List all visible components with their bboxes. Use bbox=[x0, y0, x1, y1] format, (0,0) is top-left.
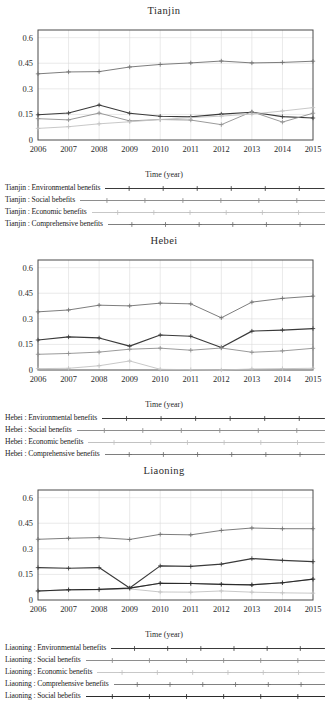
svg-text:2014: 2014 bbox=[274, 145, 292, 154]
panel-tianjin: Tianjin 00.150.30.450.620062007200820092… bbox=[0, 0, 328, 230]
panel-hebei: Hebei 00.150.30.450.62006200720082009201… bbox=[0, 230, 328, 460]
svg-text:2010: 2010 bbox=[152, 605, 169, 614]
legend-line-sample bbox=[111, 643, 325, 654]
legend-item[interactable]: Liaoning : Comprehensive benefits bbox=[0, 678, 328, 690]
svg-text:2008: 2008 bbox=[91, 145, 108, 154]
svg-text:2006: 2006 bbox=[30, 375, 47, 384]
svg-text:2015: 2015 bbox=[305, 605, 322, 614]
legend-label: Tianjin : Environmental benefits bbox=[5, 182, 100, 194]
svg-text:0.3: 0.3 bbox=[23, 545, 33, 554]
svg-text:2014: 2014 bbox=[274, 375, 292, 384]
legend-line-sample bbox=[80, 195, 325, 206]
legend-line-sample bbox=[77, 425, 325, 436]
svg-text:2009: 2009 bbox=[121, 375, 138, 384]
svg-text:0: 0 bbox=[29, 366, 33, 375]
svg-text:2012: 2012 bbox=[213, 375, 230, 384]
line-chart-hebei: 00.150.30.450.62006200720082009201020112… bbox=[0, 248, 328, 400]
legend-item[interactable]: Liaoning : Environmental benefits bbox=[0, 642, 328, 654]
legend-item[interactable]: Tianjin : Economic benefits bbox=[0, 206, 328, 218]
legend-item[interactable]: Tianjin : Social bebefits bbox=[0, 194, 328, 206]
svg-text:0.6: 0.6 bbox=[23, 34, 33, 43]
svg-text:2013: 2013 bbox=[244, 605, 261, 614]
svg-text:2013: 2013 bbox=[244, 375, 261, 384]
svg-text:2010: 2010 bbox=[152, 375, 169, 384]
legend-line-sample bbox=[105, 183, 325, 194]
legend-label: Liaoning : Social bebefits bbox=[5, 690, 81, 702]
svg-text:2006: 2006 bbox=[30, 145, 47, 154]
legend-tianjin: Tianjin : Environmental benefitsTianjin … bbox=[0, 180, 328, 230]
x-axis-label-hebei: Time (year) bbox=[0, 399, 328, 410]
legend-line-sample bbox=[88, 437, 325, 448]
legend-label: Liaoning : Social benefits bbox=[5, 654, 81, 666]
line-chart-tianjin: 00.150.30.450.62006200720082009201020112… bbox=[0, 18, 328, 170]
legend-label: Tianjin : Economic benefits bbox=[5, 206, 87, 218]
legend-item[interactable]: Liaoning : Social bebefits bbox=[0, 690, 328, 702]
plot-area-liaoning: 00.150.30.450.62006200720082009201020112… bbox=[0, 478, 328, 630]
svg-text:2009: 2009 bbox=[121, 605, 138, 614]
plot-area-tianjin: 00.150.30.450.62006200720082009201020112… bbox=[0, 18, 328, 170]
legend-line-sample bbox=[102, 413, 325, 424]
svg-text:0.3: 0.3 bbox=[23, 85, 33, 94]
chart-title-liaoning: Liaoning bbox=[0, 460, 328, 478]
svg-text:2009: 2009 bbox=[121, 145, 138, 154]
svg-text:2006: 2006 bbox=[30, 605, 47, 614]
svg-text:2007: 2007 bbox=[60, 605, 77, 614]
legend-item[interactable]: Liaoning : Social benefits bbox=[0, 654, 328, 666]
svg-text:0.45: 0.45 bbox=[18, 519, 33, 528]
svg-text:2014: 2014 bbox=[274, 605, 292, 614]
legend-hebei: Hebei : Environmental benefitsHebei : So… bbox=[0, 410, 328, 460]
svg-text:2007: 2007 bbox=[60, 375, 77, 384]
legend-item[interactable]: Hebei : Environmental benefits bbox=[0, 412, 328, 424]
legend-line-sample bbox=[114, 679, 325, 690]
legend-item[interactable]: Tianjin : Comprehensive benefits bbox=[0, 218, 328, 230]
legend-label: Tianjin : Social bebefits bbox=[5, 194, 75, 206]
legend-line-sample bbox=[105, 449, 325, 460]
legend-label: Hebei : Comprehensive benefits bbox=[5, 448, 100, 460]
svg-text:0.15: 0.15 bbox=[18, 340, 33, 349]
legend-label: Liaoning : Environmental benefits bbox=[5, 642, 106, 654]
svg-text:0.3: 0.3 bbox=[23, 315, 33, 324]
legend-label: Hebei : Social benefits bbox=[5, 424, 72, 436]
svg-text:0.45: 0.45 bbox=[18, 59, 33, 68]
x-axis-label-liaoning: Time (year) bbox=[0, 629, 328, 640]
legend-label: Hebei : Economic benefits bbox=[5, 436, 83, 448]
panel-liaoning: Liaoning 00.150.30.450.62006200720082009… bbox=[0, 460, 328, 702]
svg-text:2012: 2012 bbox=[213, 605, 230, 614]
legend-label: Tianjin : Comprehensive benefits bbox=[5, 218, 103, 230]
svg-text:0.6: 0.6 bbox=[23, 494, 33, 503]
legend-line-sample bbox=[108, 219, 325, 230]
legend-label: Liaoning : Comprehensive benefits bbox=[5, 678, 109, 690]
svg-text:2012: 2012 bbox=[213, 145, 230, 154]
legend-item[interactable]: Tianjin : Environmental benefits bbox=[0, 182, 328, 194]
plot-area-hebei: 00.150.30.450.62006200720082009201020112… bbox=[0, 248, 328, 400]
chart-title-tianjin: Tianjin bbox=[0, 0, 328, 18]
svg-text:2013: 2013 bbox=[244, 145, 261, 154]
svg-text:2011: 2011 bbox=[183, 375, 199, 384]
legend-line-sample bbox=[86, 691, 325, 702]
svg-text:2008: 2008 bbox=[91, 605, 108, 614]
legend-item[interactable]: Hebei : Comprehensive benefits bbox=[0, 448, 328, 460]
svg-text:2011: 2011 bbox=[183, 605, 199, 614]
svg-text:2015: 2015 bbox=[305, 145, 322, 154]
line-chart-liaoning: 00.150.30.450.62006200720082009201020112… bbox=[0, 478, 328, 630]
svg-text:0.15: 0.15 bbox=[18, 110, 33, 119]
legend-line-sample bbox=[92, 207, 325, 218]
svg-text:0.6: 0.6 bbox=[23, 264, 33, 273]
svg-text:2015: 2015 bbox=[305, 375, 322, 384]
svg-text:0: 0 bbox=[29, 136, 33, 145]
legend-liaoning: Liaoning : Environmental benefitsLiaonin… bbox=[0, 640, 328, 702]
legend-item[interactable]: Liaoning : Economic benefits bbox=[0, 666, 328, 678]
legend-label: Hebei : Environmental benefits bbox=[5, 412, 97, 424]
svg-text:0: 0 bbox=[29, 596, 33, 605]
svg-text:2011: 2011 bbox=[183, 145, 199, 154]
legend-line-sample bbox=[86, 655, 325, 666]
chart-title-hebei: Hebei bbox=[0, 230, 328, 248]
svg-text:0.45: 0.45 bbox=[18, 289, 33, 298]
legend-item[interactable]: Hebei : Social benefits bbox=[0, 424, 328, 436]
legend-item[interactable]: Hebei : Economic benefits bbox=[0, 436, 328, 448]
legend-line-sample bbox=[97, 667, 325, 678]
x-axis-label-tianjin: Time (year) bbox=[0, 169, 328, 180]
legend-label: Liaoning : Economic benefits bbox=[5, 666, 92, 678]
svg-text:0.15: 0.15 bbox=[18, 570, 33, 579]
